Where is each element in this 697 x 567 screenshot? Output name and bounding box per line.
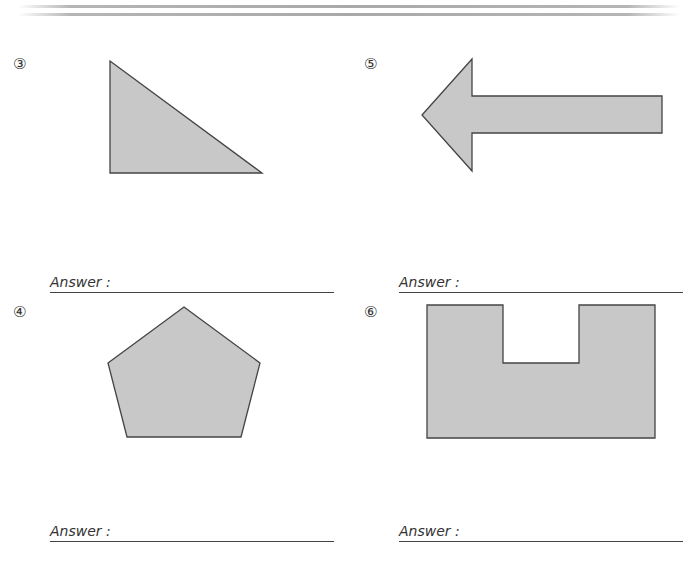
answer-field-3[interactable]: Answer : xyxy=(50,270,334,293)
pentagon-shape xyxy=(108,307,260,437)
answer-field-4[interactable]: Answer : xyxy=(50,519,334,542)
answer-label: Answer : xyxy=(399,274,460,290)
right-triangle-shape xyxy=(110,61,262,173)
answer-label: Answer : xyxy=(50,274,111,290)
answer-field-5[interactable]: Answer : xyxy=(399,270,683,293)
answer-field-6[interactable]: Answer : xyxy=(399,519,683,542)
u-shape-polygon xyxy=(427,305,655,438)
answer-label: Answer : xyxy=(50,523,111,539)
left-arrow-shape xyxy=(422,59,662,171)
answer-label: Answer : xyxy=(399,523,460,539)
